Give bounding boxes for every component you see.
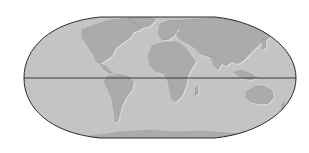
japan xyxy=(262,38,266,50)
world-map xyxy=(0,0,309,153)
madagascar xyxy=(195,86,198,96)
